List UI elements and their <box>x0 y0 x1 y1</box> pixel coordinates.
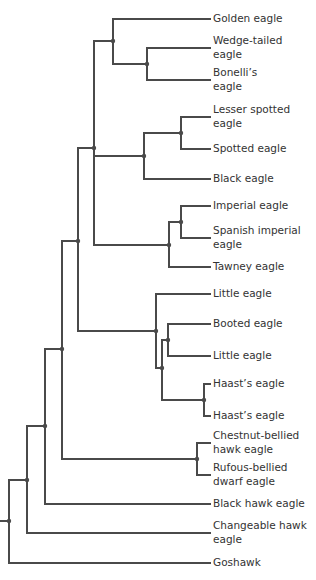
label-line: Lesser spotted <box>213 103 290 115</box>
leaf-label-little-eagle: Little eagle <box>213 287 272 301</box>
leaf-label-goshawk: Goshawk <box>213 556 261 570</box>
label-line: Bonelli’s <box>213 66 257 78</box>
leaf-label-haasts-eagle: Haast’s eagle <box>213 377 284 391</box>
leaf-label-black-hawk-eagle: Black hawk eagle <box>213 497 305 511</box>
leaf-label-lesser-spotted-eagle: Lesser spottedeagle <box>213 103 290 130</box>
label-line: Wedge-tailed <box>213 34 282 46</box>
leaf-label-golden-eagle: Golden eagle <box>213 12 283 26</box>
leaf-label-tawney-eagle: Tawney eagle <box>213 260 284 274</box>
leaf-label-wedge-tailed-eagle: Wedge-tailedeagle <box>213 34 282 61</box>
label-line: Spanish imperial <box>213 224 301 236</box>
leaf-label-chestnut-bellied-hawk-eagle: Chestnut-belliedhawk eagle <box>213 429 299 456</box>
label-line: hawk eagle <box>213 443 273 455</box>
leaf-label-spanish-imperial-eagle: Spanish imperialeagle <box>213 224 301 251</box>
label-line: eagle <box>213 117 242 129</box>
leaf-label-haasts-eagle-2: Haast’s eagle <box>213 409 284 423</box>
label-line: eagle <box>213 48 242 60</box>
leaf-label-imperial-eagle: Imperial eagle <box>213 199 288 213</box>
label-line: Chestnut-bellied <box>213 429 299 441</box>
leaf-label-black-eagle: Black eagle <box>213 172 274 186</box>
leaf-label-rufous-bellied-dwarf-eagle: Rufous-bellieddwarf eagle <box>213 461 288 488</box>
label-line: Rufous-bellied <box>213 461 288 473</box>
leaf-label-bonellis-eagle: Bonelli’seagle <box>213 66 257 93</box>
label-line: eagle <box>213 238 242 250</box>
leaf-label-spotted-eagle: Spotted eagle <box>213 142 286 156</box>
leaf-label-changeable-hawk-eagle: Changeable hawkeagle <box>213 519 307 546</box>
label-line: Changeable hawk <box>213 519 307 531</box>
label-line: eagle <box>213 80 242 92</box>
leaf-label-little-eagle-2: Little eagle <box>213 349 272 363</box>
node-markers <box>7 39 206 523</box>
leaf-label-booted-eagle: Booted eagle <box>213 317 283 331</box>
label-line: dwarf eagle <box>213 475 275 487</box>
label-line: eagle <box>213 533 242 545</box>
